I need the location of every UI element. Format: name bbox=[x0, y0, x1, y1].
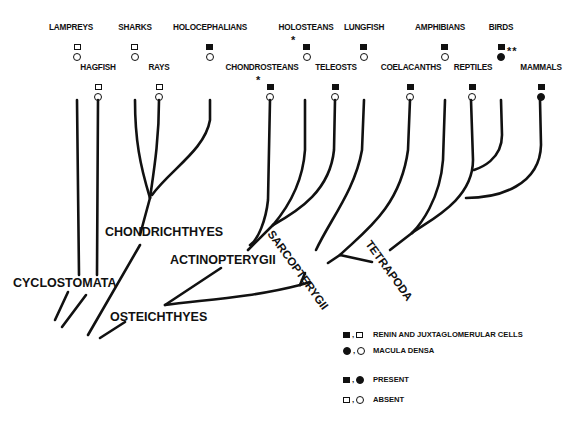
circle-filled-icon bbox=[356, 376, 364, 384]
legend-label-present: PRESENT bbox=[373, 375, 409, 384]
square-filled-icon bbox=[343, 332, 350, 338]
taxon-label: BIRDS bbox=[489, 23, 513, 32]
branch-birds bbox=[474, 100, 502, 170]
circle-filled-icon bbox=[343, 347, 351, 355]
taxon-label: HOLOCEPHALIANS bbox=[173, 23, 247, 32]
branch-mammals bbox=[466, 100, 541, 198]
branch-coelacanths bbox=[340, 100, 410, 255]
double-asterisk-note: ** bbox=[507, 45, 518, 57]
legend-row-present: , PRESENT bbox=[343, 375, 409, 384]
branch-lungfish bbox=[316, 100, 364, 250]
taxon-label: REPTILES bbox=[454, 63, 492, 72]
clade-label-osteichthyes: OSTEICHTHYES bbox=[110, 310, 207, 324]
taxon-label: RAYS bbox=[148, 63, 169, 72]
macula-absent-icon bbox=[360, 53, 368, 61]
legend-row-absent: , ABSENT bbox=[343, 395, 404, 404]
macula-absent-icon bbox=[468, 93, 476, 101]
taxon-label: MAMMALS bbox=[520, 63, 561, 72]
macula-absent-icon bbox=[331, 93, 339, 101]
macula-absent-icon bbox=[206, 53, 214, 61]
legend-label-macula: MACULA DENSA bbox=[373, 346, 434, 355]
square-open-icon bbox=[356, 332, 363, 338]
circle-open-icon bbox=[356, 396, 364, 404]
legend-label-renin: RENIN AND JUXTAGLOMERULAR CELLS bbox=[373, 330, 523, 339]
macula-absent-icon bbox=[94, 93, 102, 101]
taxon-label: LUNGFISH bbox=[344, 23, 384, 32]
macula-present-icon bbox=[497, 53, 505, 61]
taxon-label: SHARKS bbox=[118, 23, 151, 32]
square-filled-icon bbox=[343, 377, 350, 383]
taxon-label: HAGFISH bbox=[80, 63, 115, 72]
branch-chondrosteans bbox=[250, 100, 270, 245]
macula-absent-icon bbox=[155, 93, 163, 101]
legend-row-macula: , MACULA DENSA bbox=[343, 346, 434, 355]
branch-lampreys bbox=[77, 100, 79, 275]
taxon-label: LAMPREYS bbox=[49, 23, 93, 32]
taxon-label: HOLOSTEANS bbox=[279, 23, 334, 32]
macula-absent-icon bbox=[73, 53, 81, 61]
macula-absent-icon bbox=[303, 53, 311, 61]
branch-hagfish bbox=[97, 100, 98, 275]
circle-open-icon bbox=[357, 347, 365, 355]
macula-absent-icon bbox=[266, 93, 274, 101]
macula-absent-icon bbox=[406, 93, 414, 101]
clade-label-cyclostomata: CYCLOSTOMATA bbox=[13, 276, 116, 290]
clade-label-actinopterygii: ACTINOPTERYGII bbox=[170, 253, 276, 267]
square-open-icon bbox=[343, 397, 350, 403]
taxon-label: TELEOSTS bbox=[315, 63, 357, 72]
branch-rays bbox=[150, 100, 159, 198]
taxon-label: AMPHIBIANS bbox=[415, 23, 465, 32]
macula-absent-icon bbox=[131, 53, 139, 61]
taxon-label: COELACANTHS bbox=[381, 63, 442, 72]
legend-row-renin: , RENIN AND JUXTAGLOMERULAR CELLS bbox=[343, 330, 523, 339]
macula-present-icon bbox=[537, 93, 545, 101]
asterisk-note: * bbox=[256, 74, 260, 86]
clade-label-chondrichthyes: CHONDRICHTHYES bbox=[105, 225, 223, 239]
asterisk-note: * bbox=[291, 34, 295, 46]
branch-sharks bbox=[135, 100, 150, 198]
legend-label-absent: ABSENT bbox=[373, 395, 404, 404]
macula-absent-icon bbox=[441, 53, 449, 61]
branch-holocephalians bbox=[152, 100, 210, 195]
taxon-label: CHONDROSTEANS bbox=[226, 63, 299, 72]
